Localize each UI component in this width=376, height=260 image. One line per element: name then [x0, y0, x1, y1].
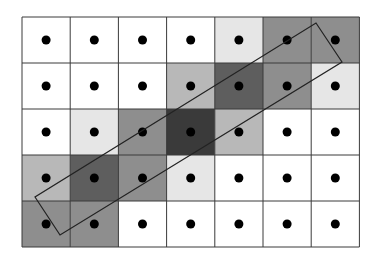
cell-center-dot — [90, 174, 99, 183]
cell-center-dot — [186, 220, 195, 229]
cell-center-dot — [90, 82, 99, 91]
cell-center-dot — [283, 82, 292, 91]
diagram-canvas — [0, 0, 376, 260]
cell-center-dot — [283, 128, 292, 137]
cell-center-dot — [138, 220, 147, 229]
cell-center-dot — [42, 36, 51, 45]
cell-center-dot — [138, 174, 147, 183]
cell-center-dot — [42, 82, 51, 91]
cell-center-dot — [186, 174, 195, 183]
cell-center-dot — [90, 36, 99, 45]
cell-center-dot — [90, 220, 99, 229]
cell-center-dot — [42, 174, 51, 183]
cell-center-dot — [234, 128, 243, 137]
cell-center-dot — [331, 128, 340, 137]
cell-center-dot — [283, 220, 292, 229]
pixel-grid-diagram — [0, 0, 376, 260]
cell-center-dot — [234, 220, 243, 229]
cell-center-dot — [234, 82, 243, 91]
cell-center-dot — [331, 220, 340, 229]
cell-center-dot — [42, 128, 51, 137]
cell-center-dot — [186, 36, 195, 45]
cell-center-dot — [138, 82, 147, 91]
cell-center-dot — [331, 82, 340, 91]
cell-center-dot — [42, 220, 51, 229]
cell-center-dot — [331, 36, 340, 45]
cell-center-dot — [186, 128, 195, 137]
cell-center-dot — [90, 128, 99, 137]
cell-center-dot — [234, 174, 243, 183]
cell-center-dot — [283, 174, 292, 183]
cell-center-dot — [331, 174, 340, 183]
cell-center-dot — [186, 82, 195, 91]
cell-center-dot — [138, 36, 147, 45]
cell-center-dot — [234, 36, 243, 45]
